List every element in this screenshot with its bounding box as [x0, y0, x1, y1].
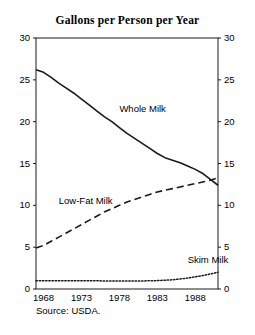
series-lines	[36, 70, 218, 281]
y-axis-right-tick-label: 15	[224, 158, 246, 169]
series-annotation-low-fat-milk: Low-Fat Milk	[59, 195, 113, 206]
y-axis-left-tick-label: 15	[8, 158, 30, 169]
series-annotation-skim-milk: Skim Milk	[188, 254, 229, 265]
chart-container: Gallons per Person per Year 302520151050…	[0, 0, 255, 335]
axis-tick-marks	[33, 38, 221, 289]
y-axis-left-tick-label: 30	[8, 32, 30, 43]
plot-border	[36, 38, 218, 289]
x-axis-tick-label: 1968	[24, 292, 64, 303]
chart-plot-area	[0, 0, 255, 335]
y-axis-right-tick-label: 0	[224, 283, 246, 294]
series-line-whole-milk	[36, 70, 218, 185]
y-axis-left-tick-label: 25	[8, 74, 30, 85]
y-axis-right-tick-label: 10	[224, 199, 246, 210]
x-axis-tick-label: 1978	[99, 292, 139, 303]
y-axis-right-tick-label: 20	[224, 116, 246, 127]
y-axis-left-tick-label: 10	[8, 199, 30, 210]
y-axis-left-tick-label: 5	[8, 241, 30, 252]
y-axis-right-tick-label: 30	[224, 32, 246, 43]
y-axis-right-tick-label: 5	[224, 241, 246, 252]
source-note: Source: USDA.	[36, 305, 100, 316]
series-line-low-fat-milk	[36, 178, 218, 248]
x-axis-tick-label: 1983	[137, 292, 177, 303]
x-axis-tick-label: 1988	[175, 292, 215, 303]
series-line-skim-milk	[36, 272, 218, 281]
x-axis-tick-label: 1973	[62, 292, 102, 303]
y-axis-left-tick-label: 20	[8, 116, 30, 127]
plot-frame	[36, 38, 218, 289]
y-axis-right-tick-label: 25	[224, 74, 246, 85]
series-annotation-whole-milk: Whole Milk	[119, 103, 165, 114]
